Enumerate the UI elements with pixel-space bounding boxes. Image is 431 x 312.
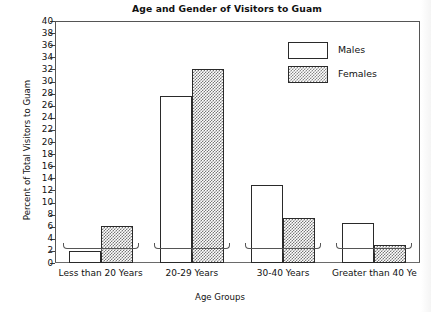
group-tick bbox=[283, 249, 284, 253]
plot-area: 0246810121416182022242628303234363840 bbox=[55, 21, 420, 263]
bar-females bbox=[283, 218, 315, 263]
legend-label-males: Males bbox=[338, 44, 365, 55]
bar-males bbox=[69, 251, 101, 263]
y-tick-label: 40 bbox=[42, 16, 53, 26]
group-tick bbox=[101, 249, 102, 253]
y-tick-label: 32 bbox=[42, 64, 53, 74]
x-axis-label: Age Groups bbox=[55, 292, 385, 302]
y-tick-label: 36 bbox=[42, 40, 53, 50]
legend-swatch-females bbox=[288, 66, 328, 83]
y-tick-label: 22 bbox=[42, 124, 53, 134]
y-tick-label: 0 bbox=[47, 258, 53, 268]
y-tick-label: 28 bbox=[42, 88, 53, 98]
y-tick-label: 24 bbox=[42, 112, 53, 122]
y-tick-label: 34 bbox=[42, 52, 53, 62]
y-tick-label: 14 bbox=[42, 173, 53, 183]
y-tick-label: 26 bbox=[42, 100, 53, 110]
chart-title: Age and Gender of Visitors to Guam bbox=[62, 3, 392, 14]
bar-females bbox=[192, 69, 224, 263]
bar-males bbox=[160, 96, 192, 263]
y-axis-line bbox=[55, 21, 56, 263]
y-tick-label: 12 bbox=[42, 185, 53, 195]
y-tick-label: 30 bbox=[42, 76, 53, 86]
plot-frame-top bbox=[55, 21, 420, 22]
bar-males bbox=[251, 185, 283, 263]
y-tick-label: 10 bbox=[42, 197, 53, 207]
plot-frame-right bbox=[419, 21, 420, 263]
bar-chart-figure: Age and Gender of Visitors to Guam Perce… bbox=[0, 0, 431, 312]
group-tick bbox=[374, 249, 375, 253]
x-tick-label: Greater than 40 Ye bbox=[314, 268, 431, 278]
y-tick-label: 38 bbox=[42, 28, 53, 38]
y-tick-label: 4 bbox=[47, 233, 53, 243]
y-tick-label: 16 bbox=[42, 161, 53, 171]
y-tick-label: 6 bbox=[47, 221, 53, 231]
group-tick bbox=[192, 249, 193, 253]
legend-label-females: Females bbox=[338, 68, 377, 79]
y-tick-label: 18 bbox=[42, 149, 53, 159]
y-tick-label: 2 bbox=[47, 245, 53, 255]
y-tick-label: 20 bbox=[42, 137, 53, 147]
legend-swatch-males bbox=[288, 42, 328, 59]
y-tick-label: 8 bbox=[47, 209, 53, 219]
y-axis-label: Percent of Total Visitors to Guam bbox=[22, 50, 32, 250]
scan-edge-artifact bbox=[421, 0, 431, 312]
